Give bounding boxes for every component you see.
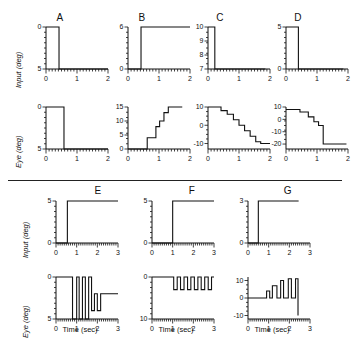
svg-text:1: 1 [267,249,271,256]
svg-text:5: 5 [38,145,42,152]
svg-text:10: 10 [196,103,204,110]
svg-text:15: 15 [116,103,124,110]
svg-text:1: 1 [171,249,175,256]
svg-text:0: 0 [278,65,282,72]
plot-d-eye: 012-20-10010 [266,102,354,162]
svg-text:3: 3 [240,197,244,204]
panel-title-f: F [172,185,212,196]
svg-text:0: 0 [150,249,154,256]
svg-text:0: 0 [144,273,148,280]
svg-text:2: 2 [191,249,195,256]
svg-text:-20: -20 [271,140,281,147]
svg-text:0: 0 [120,65,124,72]
svg-text:3: 3 [116,249,120,256]
svg-text:0: 0 [200,122,204,129]
svg-text:0: 0 [206,75,210,82]
svg-text:6: 6 [120,23,124,30]
section-divider [8,180,342,181]
svg-text:0: 0 [38,103,42,110]
svg-text:1: 1 [237,155,241,162]
svg-text:1: 1 [237,75,241,82]
svg-text:10: 10 [236,277,244,284]
plot-e-eye: 012305 [36,272,124,332]
svg-text:-10: -10 [233,312,243,319]
panel-title-e: E [78,185,118,196]
plot-b-eye: 012051015 [108,102,196,162]
svg-text:0: 0 [44,75,48,82]
svg-text:5: 5 [278,23,282,30]
plot-b-input: 01206 [108,22,196,82]
plot-c-eye: 012-10010 [188,102,276,162]
svg-text:9: 9 [200,37,204,44]
plot-f-eye: 0123010 [132,272,220,332]
svg-text:5: 5 [144,197,148,204]
y-axis-label-eye-bottom: Eye (deg) [21,305,30,338]
svg-text:2: 2 [95,249,99,256]
svg-text:10: 10 [196,23,204,30]
svg-text:0: 0 [44,155,48,162]
plot-g-input: 012303 [228,196,316,256]
svg-text:2: 2 [346,75,350,82]
svg-text:1: 1 [75,249,79,256]
y-axis-label-eye-top: Eye (deg) [14,135,23,168]
svg-text:0: 0 [54,249,58,256]
svg-text:0: 0 [144,239,148,246]
svg-text:1: 1 [315,75,319,82]
svg-text:1: 1 [157,75,161,82]
x-axis-label-e: Time (sec) [40,325,120,334]
plot-e-input: 012305 [36,196,124,256]
svg-text:0: 0 [206,155,210,162]
svg-text:5: 5 [48,315,52,322]
svg-text:10: 10 [140,315,148,322]
svg-text:0: 0 [38,23,42,30]
svg-text:7: 7 [200,65,204,72]
svg-text:1: 1 [315,155,319,162]
svg-text:5: 5 [38,65,42,72]
svg-text:-10: -10 [271,128,281,135]
plot-c-input: 01278910 [188,22,276,82]
plot-g-eye: 0123-10010 [228,272,316,332]
svg-text:10: 10 [116,117,124,124]
plot-f-input: 012305 [132,196,220,256]
svg-text:0: 0 [240,294,244,301]
svg-text:2: 2 [287,249,291,256]
x-axis-label-f: Time (sec) [136,325,216,334]
svg-text:2: 2 [346,155,350,162]
svg-text:0: 0 [284,155,288,162]
svg-text:0: 0 [120,145,124,152]
plot-d-input: 01205 [266,22,354,82]
y-axis-label-input-top: Input (deg) [14,52,23,88]
y-axis-label-input-bottom: Input (deg) [21,222,30,258]
svg-text:0: 0 [278,116,282,123]
svg-text:1: 1 [157,155,161,162]
plot-a-eye: 01205 [26,102,114,162]
svg-text:0: 0 [246,249,250,256]
svg-text:0: 0 [240,239,244,246]
svg-text:0: 0 [284,75,288,82]
plot-a-input: 01205 [26,22,114,82]
svg-text:5: 5 [48,197,52,204]
svg-text:0: 0 [126,155,130,162]
svg-text:0: 0 [48,239,52,246]
svg-text:0: 0 [48,273,52,280]
x-axis-label-g: Time (sec) [232,325,312,334]
svg-text:8: 8 [200,51,204,58]
svg-text:1: 1 [75,155,79,162]
svg-text:3: 3 [308,249,312,256]
svg-text:5: 5 [120,131,124,138]
svg-text:3: 3 [212,249,216,256]
panel-title-g: G [268,185,308,196]
svg-text:-10: -10 [193,140,203,147]
svg-text:1: 1 [75,75,79,82]
svg-text:0: 0 [126,75,130,82]
svg-text:10: 10 [274,103,282,110]
